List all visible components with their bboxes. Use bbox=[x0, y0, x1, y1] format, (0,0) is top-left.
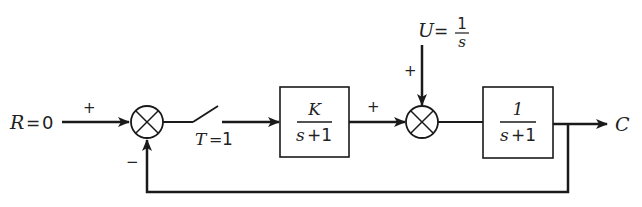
block-1-out-sign: + bbox=[367, 98, 380, 116]
block-1-denominator-rest: +1 bbox=[307, 125, 332, 145]
block-2-numerator: 1 bbox=[513, 99, 524, 119]
disturbance-sign: + bbox=[404, 62, 417, 80]
input-value: 0 bbox=[42, 112, 53, 133]
block-1: K s +1 bbox=[280, 87, 349, 157]
summing-junction-1 bbox=[131, 106, 163, 138]
disturbance-numerator: 1 bbox=[457, 15, 467, 33]
input-symbol: R bbox=[9, 111, 24, 133]
input-equals: = bbox=[26, 113, 40, 133]
sampler-value: 1 bbox=[222, 129, 233, 149]
disturbance-denominator: s bbox=[458, 33, 466, 51]
block-1-numerator: K bbox=[307, 99, 322, 119]
block-diagram: R = 0 + T = 1 K s +1 + U = 1 s + bbox=[0, 0, 642, 207]
block-2-denominator-var: s bbox=[500, 125, 509, 145]
sampler-equals: = bbox=[209, 130, 222, 149]
feedback-sign: − bbox=[126, 153, 139, 171]
block-2-denominator-rest: +1 bbox=[511, 125, 536, 145]
input-plus-sign: + bbox=[83, 99, 96, 117]
output-symbol: C bbox=[615, 113, 630, 135]
sampler-switch bbox=[193, 106, 218, 122]
disturbance-equals: = bbox=[434, 21, 448, 41]
summing-junction-2 bbox=[406, 106, 438, 138]
block-1-denominator-var: s bbox=[296, 125, 305, 145]
block-2: 1 s +1 bbox=[483, 87, 553, 158]
sampler-symbol: T bbox=[195, 129, 208, 149]
disturbance-symbol: U bbox=[418, 19, 435, 41]
